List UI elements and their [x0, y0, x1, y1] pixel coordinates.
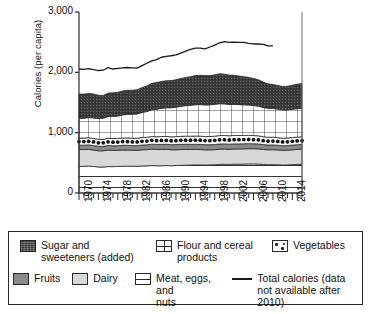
stacked-area-chart-figure: Calories (per capita) 3,000 2,000 1,000 …	[0, 0, 375, 314]
vegetables-swatch-icon	[272, 240, 288, 252]
legend-item-fruits[interactable]: Fruits	[13, 272, 64, 285]
flour-swatch-icon	[156, 240, 172, 252]
meat-swatch-icon	[135, 273, 151, 285]
legend-label-meat: Meat, eggs, and nuts	[156, 272, 224, 308]
legend-item-total-calories[interactable]: Total calories (data not available after…	[232, 272, 354, 308]
legend-label-fruits: Fruits	[34, 272, 60, 284]
legend-label-dairy: Dairy	[93, 272, 118, 284]
legend-label-vegetables: Vegetables	[293, 239, 345, 251]
legend-item-vegetables[interactable]: Vegetables	[272, 239, 345, 252]
chart-plot-region: Calories (per capita) 3,000 2,000 1,000 …	[0, 0, 375, 228]
legend-row-bottom: Fruits Dairy Meat, eggs, and nuts Total …	[13, 272, 362, 308]
dairy-swatch-icon	[72, 273, 88, 285]
legend-row-top: Sugar and sweeteners (added) Flour and c…	[20, 239, 353, 263]
y-tick-1000: 1,000	[48, 126, 73, 137]
y-axis-tick-labels: 3,000 2,000 1,000 0	[0, 0, 73, 200]
sugar-swatch-icon	[20, 240, 36, 252]
legend-item-flour[interactable]: Flour and cereal products	[156, 239, 264, 263]
legend-label-total-calories: Total calories (data not available after…	[257, 272, 354, 308]
chart-legend: Sugar and sweeteners (added) Flour and c…	[8, 231, 363, 305]
fruits-swatch-icon	[13, 273, 29, 285]
total-line-swatch-icon	[232, 278, 252, 280]
legend-item-meat[interactable]: Meat, eggs, and nuts	[135, 272, 224, 308]
legend-label-flour: Flour and cereal products	[177, 239, 253, 263]
y-tick-2000: 2,000	[48, 65, 73, 76]
legend-label-sugar: Sugar and sweeteners (added)	[41, 239, 134, 263]
y-tick-3000: 3,000	[48, 5, 73, 16]
y-tick-0: 0	[67, 186, 73, 197]
legend-item-sugar[interactable]: Sugar and sweeteners (added)	[20, 239, 148, 263]
legend-item-dairy[interactable]: Dairy	[72, 272, 127, 285]
